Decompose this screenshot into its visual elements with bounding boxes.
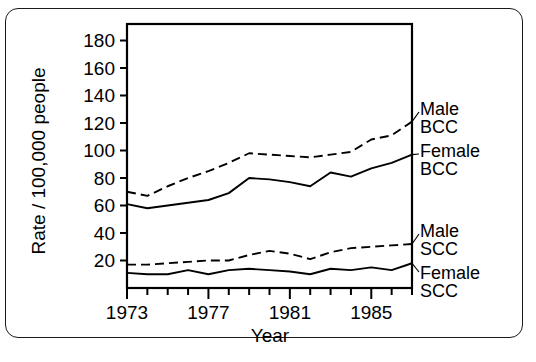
x-tick-label: 1981	[269, 302, 311, 323]
legend-item-male-scc: Male SCC	[420, 222, 459, 259]
y-tick-label: 80	[94, 168, 115, 189]
plot-wrapper: 204060801001201401601801973197719811985	[0, 0, 536, 362]
x-tick-label: 1977	[187, 302, 229, 323]
y-tick-label: 40	[94, 223, 115, 244]
legend-leader-line	[412, 154, 419, 155]
legend-label-line1: Female	[420, 142, 480, 160]
legend-label-line2: BCC	[420, 118, 459, 136]
plot-frame	[127, 24, 412, 288]
y-tick-label: 120	[83, 113, 115, 134]
legend-label-line2: BCC	[420, 160, 480, 178]
y-tick-label: 140	[83, 85, 115, 106]
legend-item-female-scc: Female SCC	[420, 264, 480, 301]
y-tick-label: 160	[83, 58, 115, 79]
x-axis-label: Year	[180, 325, 360, 347]
legend-label-line1: Male	[420, 100, 459, 118]
series-line-male-bcc	[127, 122, 412, 196]
x-tick-label: 1973	[106, 302, 148, 323]
legend-label-line1: Female	[420, 264, 480, 282]
figure-container: 204060801001201401601801973197719811985 …	[0, 0, 536, 362]
y-axis-label: Rate / 100,000 people	[28, 46, 50, 276]
legend-label-line2: SCC	[420, 240, 459, 258]
y-tick-label: 100	[83, 140, 115, 161]
series-line-female-scc	[127, 263, 412, 274]
y-tick-label: 60	[94, 195, 115, 216]
y-tick-label: 20	[94, 250, 115, 271]
y-tick-label: 180	[83, 30, 115, 51]
line-chart: 204060801001201401601801973197719811985	[0, 0, 536, 362]
legend-item-female-bcc: Female BCC	[420, 142, 480, 179]
x-tick-label: 1985	[350, 302, 392, 323]
series-line-female-bcc	[127, 155, 412, 209]
legend-label-line2: SCC	[420, 282, 480, 300]
series-line-male-scc	[127, 244, 412, 265]
legend-label-line1: Male	[420, 222, 459, 240]
legend-item-male-bcc: Male BCC	[420, 100, 459, 137]
